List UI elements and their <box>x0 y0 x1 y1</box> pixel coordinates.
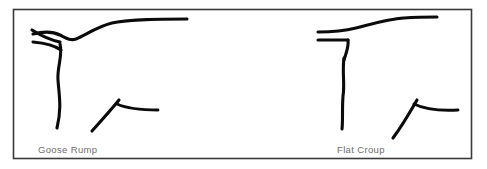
croup-comparison-diagram: Goose Rump Flat Croup <box>0 0 487 169</box>
flat-croup-caption: Flat Croup <box>337 144 385 155</box>
diagram-canvas: Goose Rump Flat Croup <box>0 0 487 169</box>
goose-rump-caption: Goose Rump <box>38 144 97 155</box>
diagram-border <box>14 10 472 159</box>
flat-croup-hind-leg <box>342 58 344 129</box>
